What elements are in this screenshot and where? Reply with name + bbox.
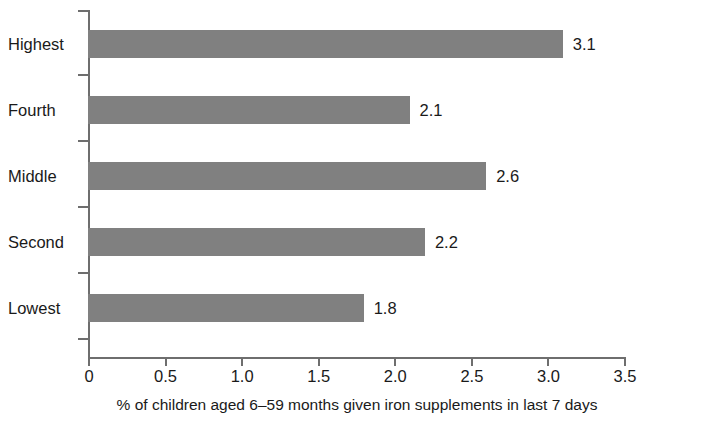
x-axis-tick: [547, 357, 549, 366]
x-axis-tick-label: 3.5: [614, 367, 637, 386]
category-label-text: Highest: [0, 35, 64, 54]
bar-row: 2.2: [88, 228, 624, 256]
category-label-fourth: Fourth: [0, 96, 78, 124]
x-axis-tick-label: 2.0: [384, 367, 407, 386]
x-axis-tick: [471, 357, 473, 366]
y-axis-tick: [78, 206, 89, 208]
bar-row: 3.1: [88, 30, 624, 58]
bar-value-label: 1.8: [374, 299, 397, 318]
category-label-text: Middle: [0, 167, 57, 186]
x-axis-tick-label: 1.5: [307, 367, 330, 386]
x-axis-tick: [88, 357, 90, 366]
bar-row: 2.6: [88, 162, 624, 190]
bar-row: 1.8: [88, 294, 624, 322]
x-axis-tick: [165, 357, 167, 366]
bar-value-label: 2.6: [496, 167, 519, 186]
x-axis-tick: [318, 357, 320, 366]
bar-value-label: 3.1: [573, 35, 596, 54]
bar: [88, 294, 364, 322]
category-label-text: Fourth: [0, 101, 56, 120]
category-label-highest: Highest: [0, 30, 78, 58]
y-axis-tick: [78, 272, 89, 274]
x-axis-tick: [624, 357, 626, 366]
x-axis-line: [88, 357, 624, 359]
y-axis-tick: [78, 140, 89, 142]
category-label-middle: Middle: [0, 162, 78, 190]
bar-row: 2.1: [88, 96, 624, 124]
x-axis-tick: [394, 357, 396, 366]
x-axis-tick-label: 1.0: [231, 367, 254, 386]
bar: [88, 30, 563, 58]
bar: [88, 228, 425, 256]
bar: [88, 96, 410, 124]
category-label-second: Second: [0, 228, 78, 256]
category-label-lowest: Lowest: [0, 294, 78, 322]
x-axis-tick-label: 2.5: [460, 367, 483, 386]
plot-area: HighestFourthMiddleSecondLowest 3.12.12.…: [0, 0, 714, 360]
bar-value-label: 2.2: [435, 233, 458, 252]
bar-chart: HighestFourthMiddleSecondLowest 3.12.12.…: [0, 0, 714, 424]
x-axis-tick-label: 0: [84, 367, 93, 386]
category-label-text: Second: [0, 233, 64, 252]
y-axis-tick: [78, 10, 89, 12]
x-axis-tick-label: 0.5: [154, 367, 177, 386]
x-axis-tick-label: 3.0: [537, 367, 560, 386]
category-label-text: Lowest: [0, 299, 60, 318]
chart-caption: % of children aged 6–59 months given iro…: [0, 396, 714, 414]
x-axis-tick: [241, 357, 243, 366]
y-axis-tick: [78, 338, 89, 340]
bar-value-label: 2.1: [420, 101, 443, 120]
y-axis-tick: [78, 74, 89, 76]
bar: [88, 162, 486, 190]
